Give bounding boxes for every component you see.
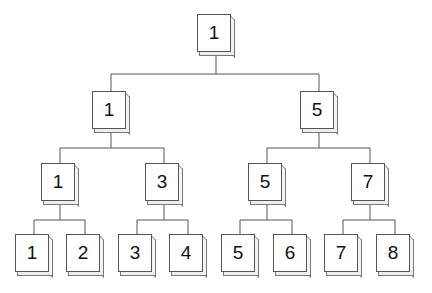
node-label: 8: [376, 234, 410, 272]
node-label: 5: [300, 91, 334, 129]
tree-node: 2: [66, 234, 106, 277]
tree-node: 1: [92, 91, 132, 134]
tree-node: 1: [15, 234, 55, 277]
node-label: 3: [118, 234, 152, 272]
tree-diagram: 115135712345678: [0, 0, 432, 293]
node-label: 1: [92, 91, 126, 129]
node-label: 3: [145, 163, 179, 201]
node-label: 7: [324, 234, 358, 272]
tree-node: 5: [221, 234, 261, 277]
tree-node: 4: [169, 234, 209, 277]
node-label: 4: [169, 234, 203, 272]
node-label: 5: [248, 163, 282, 201]
tree-node: 8: [376, 234, 416, 277]
tree-node: 3: [145, 163, 185, 206]
tree-node: 6: [273, 234, 313, 277]
node-label: 7: [351, 163, 385, 201]
node-label: 1: [197, 14, 231, 52]
node-label: 6: [273, 234, 307, 272]
tree-node: 1: [197, 14, 237, 57]
tree-node: 3: [118, 234, 158, 277]
node-label: 2: [66, 234, 100, 272]
node-label: 1: [41, 163, 75, 201]
node-label: 5: [221, 234, 255, 272]
tree-node: 5: [248, 163, 288, 206]
tree-node: 1: [41, 163, 81, 206]
tree-node: 7: [324, 234, 364, 277]
tree-node: 7: [351, 163, 391, 206]
tree-node: 5: [300, 91, 340, 134]
node-label: 1: [15, 234, 49, 272]
